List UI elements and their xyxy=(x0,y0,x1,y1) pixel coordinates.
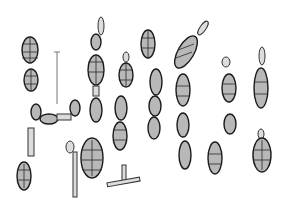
conidium-8 xyxy=(208,142,222,174)
conidium-chain-4 xyxy=(141,30,162,139)
conidium-chain-5 xyxy=(170,20,210,169)
illustration xyxy=(0,0,281,208)
conidium-chain-6 xyxy=(222,57,236,134)
conidium-9 xyxy=(253,129,271,172)
conidium-chain-1 xyxy=(17,37,80,190)
conidia-drawing xyxy=(0,0,281,208)
conidium-7 xyxy=(254,47,268,108)
conidium-chain-3 xyxy=(107,52,140,187)
